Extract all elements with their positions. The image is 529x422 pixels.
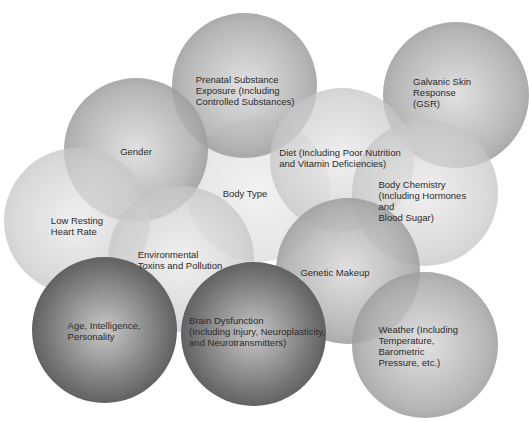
circle-age <box>32 257 177 403</box>
circle-brain <box>181 262 326 406</box>
circle-weather <box>352 272 498 418</box>
